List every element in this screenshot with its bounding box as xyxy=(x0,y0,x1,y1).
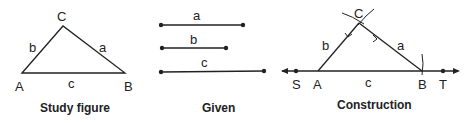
study-caption: Study figure xyxy=(40,101,110,115)
given-label-a: a xyxy=(193,8,201,23)
construction-point-a-label: A xyxy=(313,77,322,92)
construction-side-b-label: b xyxy=(322,38,329,53)
given-label-b: b xyxy=(190,32,197,47)
construction-caption: Construction xyxy=(337,98,412,112)
arrow-left-icon xyxy=(281,68,288,74)
study-vertex-a: A xyxy=(15,79,24,94)
point-t xyxy=(441,69,445,73)
construction-figure: C b a c S A B T Construction xyxy=(281,6,460,112)
construction-point-s-label: S xyxy=(292,77,301,92)
given-segment-a: a xyxy=(159,8,245,27)
given-segments: a b c Given xyxy=(159,8,266,115)
study-triangle xyxy=(22,26,125,73)
given-segment-b: b xyxy=(160,32,228,50)
study-figure: C A B b a c Study figure xyxy=(15,9,133,115)
given-label-c: c xyxy=(201,55,208,70)
study-vertex-c: C xyxy=(57,9,66,24)
construction-side-a xyxy=(359,23,422,71)
given-caption: Given xyxy=(202,101,235,115)
study-vertex-b: B xyxy=(124,79,133,94)
arrow-right-icon xyxy=(453,68,460,74)
construction-side-c-label: c xyxy=(365,75,372,90)
diagram-canvas: C A B b a c Study figure a b c Given xyxy=(0,0,469,123)
given-segment-c: c xyxy=(159,55,266,74)
construction-point-b-label: B xyxy=(418,77,427,92)
construction-point-t-label: T xyxy=(439,77,447,92)
study-side-c: c xyxy=(68,76,75,91)
study-side-a: a xyxy=(99,40,107,55)
point-s xyxy=(294,69,298,73)
construction-vertex-c: C xyxy=(354,6,363,21)
construction-side-a-label: a xyxy=(397,38,405,53)
arc-b xyxy=(422,54,423,75)
study-side-b: b xyxy=(29,40,36,55)
